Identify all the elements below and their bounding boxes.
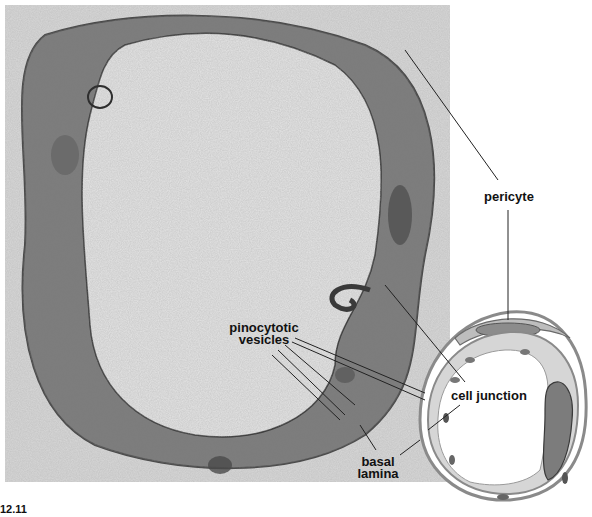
- basal-lamina-leader-diagram: [400, 440, 420, 455]
- label-basal-line2: lamina: [354, 468, 402, 480]
- cell-junction-leader-micrograph: [385, 285, 465, 382]
- label-pinocytotic-line2: vesicles: [222, 334, 306, 346]
- figure-number: 12.11: [0, 503, 27, 515]
- label-pinocytotic-vesicles: pinocytotic vesicles: [222, 322, 306, 346]
- vesicle-leader-2: [292, 342, 425, 400]
- capillary-diagram: [0, 0, 592, 517]
- figure: pericyte pinocytotic vesicles cell junct…: [0, 0, 592, 517]
- basal-lamina-leader-micrograph: [360, 425, 376, 450]
- label-cell-junction: cell junction: [451, 390, 527, 402]
- label-pericyte: pericyte: [484, 191, 534, 203]
- vesicle-leader-5: [272, 355, 340, 420]
- vesicle-leader-4: [278, 350, 345, 415]
- pericyte-leader-upper: [405, 50, 498, 180]
- label-basal-lamina: basal lamina: [354, 456, 402, 480]
